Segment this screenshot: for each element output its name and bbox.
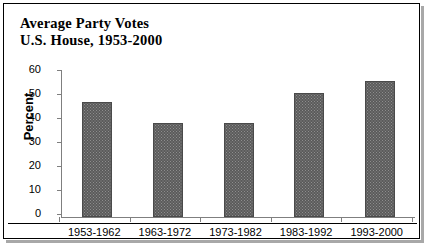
y-axis-tick-label: 20: [15, 160, 41, 171]
x-axis-separator: [59, 217, 60, 222]
x-axis-separator: [341, 217, 342, 222]
y-axis-tick-label: 40: [15, 112, 41, 123]
chart-shadow-right: [421, 6, 424, 242]
chart-title: Average Party Votes U.S. House, 1953-200…: [20, 15, 162, 49]
chart-title-line2: U.S. House, 1953-2000: [20, 32, 162, 49]
bar: [365, 81, 395, 217]
x-axis-separator: [130, 217, 131, 222]
y-axis-tick-label: 10: [15, 184, 41, 195]
x-axis-line: [61, 217, 415, 218]
x-axis-label: 1973-1982: [200, 226, 271, 238]
bars-layer: [62, 70, 415, 217]
bar: [82, 102, 112, 217]
bar: [153, 123, 183, 217]
x-axis-separator: [412, 217, 413, 222]
bar: [294, 93, 324, 217]
y-axis-tick-label: 30: [15, 136, 41, 147]
x-axis-separator: [271, 217, 272, 222]
x-axis-separator: [200, 217, 201, 222]
x-axis-label: 1993-2000: [341, 226, 412, 238]
chart-figure: Average Party Votes U.S. House, 1953-200…: [3, 3, 420, 239]
x-axis-label: 1963-1972: [130, 226, 201, 238]
x-axis-label: 1983-1992: [271, 226, 342, 238]
x-axis-label-band: 1953-19621963-19721973-19821983-19921993…: [8, 223, 417, 239]
x-axis-label: 1953-1962: [59, 226, 130, 238]
y-axis-tick-label: 50: [15, 88, 41, 99]
chart-shadow-bottom: [6, 240, 424, 243]
y-axis-tick-label: 60: [15, 64, 41, 75]
chart-title-line1: Average Party Votes: [20, 15, 162, 32]
y-axis-tick-label: 0: [15, 208, 41, 219]
bar: [224, 123, 254, 217]
